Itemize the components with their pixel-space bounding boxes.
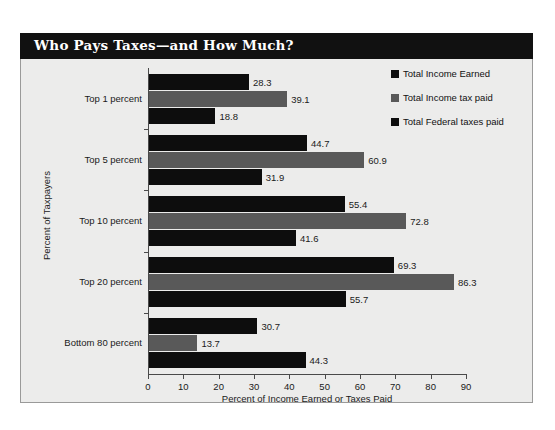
legend-label: Total Federal taxes paid <box>403 116 504 127</box>
bar <box>149 213 406 229</box>
x-axis-tick-label: 70 <box>390 381 401 392</box>
legend-label: Total Income Earned <box>403 68 490 79</box>
x-axis-tick <box>325 374 326 379</box>
bar-value-label: 55.4 <box>349 199 368 210</box>
x-axis-tick <box>148 374 149 379</box>
bar-value-label: 44.3 <box>310 355 329 366</box>
plot-area: 010203040506070809028.339.118.844.760.93… <box>148 68 466 374</box>
x-axis-tick-label: 50 <box>319 381 330 392</box>
bar <box>149 352 306 368</box>
legend-label: Total Income tax paid <box>403 92 493 103</box>
bar <box>149 152 364 168</box>
y-axis-tick <box>144 252 149 253</box>
bar <box>149 274 454 290</box>
bar-value-label: 60.9 <box>368 155 387 166</box>
x-axis-tick-label: 0 <box>145 381 150 392</box>
bar <box>149 291 346 307</box>
x-axis-title: Percent of Income Earned or Taxes Paid <box>148 393 466 404</box>
y-axis-tick <box>144 313 149 314</box>
bar-value-label: 13.7 <box>201 338 220 349</box>
x-axis-tick-label: 10 <box>178 381 189 392</box>
bar-value-label: 55.7 <box>350 294 369 305</box>
bar-value-label: 86.3 <box>458 277 477 288</box>
x-axis-tick <box>360 374 361 379</box>
bar-value-label: 39.1 <box>291 94 310 105</box>
bar <box>149 74 249 90</box>
category-label: Top 1 percent <box>84 93 142 104</box>
y-axis-title: Percent of Taxpayers <box>41 156 52 276</box>
x-axis-tick <box>183 374 184 379</box>
y-axis-tick <box>144 190 149 191</box>
category-label: Top 20 percent <box>79 276 142 287</box>
bar <box>149 196 345 212</box>
x-axis-tick <box>431 374 432 379</box>
bar <box>149 318 257 334</box>
bar-value-label: 28.3 <box>253 77 272 88</box>
x-axis-tick-label: 40 <box>284 381 295 392</box>
bar-value-label: 18.8 <box>219 111 238 122</box>
bar-value-label: 31.9 <box>266 172 285 183</box>
bar <box>149 91 287 107</box>
bar <box>149 108 215 124</box>
y-axis-tick <box>144 129 149 130</box>
bar <box>149 135 307 151</box>
bar-value-label: 44.7 <box>311 138 330 149</box>
x-axis-tick <box>289 374 290 379</box>
legend-swatch-icon <box>391 94 399 102</box>
bar <box>149 335 197 351</box>
bar <box>149 169 262 185</box>
bar <box>149 257 394 273</box>
chart-title: Who Pays Taxes—and How Much? <box>34 37 294 53</box>
x-axis-tick <box>466 374 467 379</box>
bar <box>149 230 296 246</box>
bar-value-label: 41.6 <box>300 233 319 244</box>
x-axis-tick <box>395 374 396 379</box>
x-axis-tick-label: 20 <box>213 381 224 392</box>
chart-page: Who Pays Taxes—and How Much? Percent of … <box>0 0 555 430</box>
category-label: Top 10 percent <box>79 215 142 226</box>
category-label: Top 5 percent <box>84 154 142 165</box>
x-axis-line <box>148 374 466 375</box>
x-axis-tick <box>254 374 255 379</box>
category-label: Bottom 80 percent <box>64 337 142 348</box>
bar-value-label: 30.7 <box>261 321 280 332</box>
legend-swatch-icon <box>391 70 399 78</box>
legend-swatch-icon <box>391 118 399 126</box>
x-axis-tick-label: 30 <box>249 381 260 392</box>
x-axis-tick-label: 90 <box>461 381 472 392</box>
category-label-column: Top 1 percentTop 5 percentTop 10 percent… <box>52 68 142 374</box>
x-axis-tick <box>219 374 220 379</box>
title-banner: Who Pays Taxes—and How Much? <box>20 33 533 59</box>
bar-value-label: 69.3 <box>398 260 417 271</box>
x-axis-tick-label: 80 <box>425 381 436 392</box>
bar-value-label: 72.8 <box>410 216 429 227</box>
x-axis-tick-label: 60 <box>355 381 366 392</box>
